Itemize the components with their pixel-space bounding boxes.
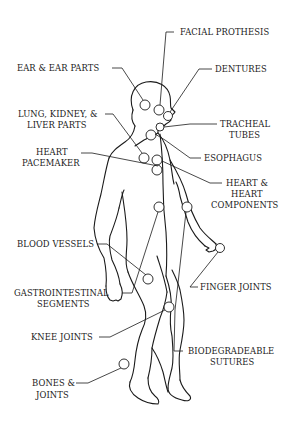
label-heart-components-1: HEART & <box>226 178 268 188</box>
marker-sutures <box>182 202 192 212</box>
label-biodegradeable-2: SUTURES <box>210 357 254 367</box>
marker-ear <box>140 100 150 110</box>
marker-blood <box>143 274 153 284</box>
label-heart-pacemaker-1: HEART <box>36 147 68 157</box>
label-biodegradeable-1: BIODEGRADEABLE <box>188 346 274 356</box>
label-dentures: DENTURES <box>215 64 267 74</box>
label-esophagus: ESOPHAGUS <box>204 153 262 163</box>
marker-lung <box>139 153 149 163</box>
marker-tracheal <box>156 123 164 131</box>
label-tracheal-tubes-1: TRACHEAL <box>220 119 271 129</box>
marker-knee <box>164 302 174 312</box>
label-blood-vessels: BLOOD VESSELS <box>17 239 94 249</box>
label-ear-parts: EAR & EAR PARTS <box>17 63 99 73</box>
implant-sites-diagram: FACIAL PROTHESIS EAR & EAR PARTS DENTURE… <box>0 0 299 421</box>
label-bones-joints-2: JOINTS <box>35 390 69 400</box>
marker-heart-components <box>152 155 162 165</box>
marker-bones <box>119 359 129 369</box>
label-gastrointestinal-2: SEGMENTS <box>37 299 90 309</box>
marker-esophagus <box>146 130 156 140</box>
label-tracheal-tubes-2: TUBES <box>229 130 260 140</box>
label-lung-kidney-liver-1: LUNG, KIDNEY, & <box>18 109 98 119</box>
marker-dentures <box>164 112 173 121</box>
label-facial-prosthesis: FACIAL PROTHESIS <box>180 27 269 37</box>
marker-facial <box>154 105 164 115</box>
label-gastrointestinal-1: GASTROINTESTINAL <box>14 288 109 298</box>
label-knee-joints: KNEE JOINTS <box>31 332 93 342</box>
label-finger-joints: FINGER JOINTS <box>200 282 272 292</box>
marker-finger <box>216 244 225 253</box>
label-heart-pacemaker-2: PACEMAKER <box>22 158 80 168</box>
marker-gastro <box>154 202 164 212</box>
label-lung-kidney-liver-2: LIVER PARTS <box>27 120 87 130</box>
implant-markers <box>119 100 225 369</box>
labels: FACIAL PROTHESIS EAR & EAR PARTS DENTURE… <box>14 27 279 400</box>
marker-pacemaker <box>152 165 162 175</box>
label-heart-components-3: COMPONENTS <box>211 200 279 210</box>
label-bones-joints-1: BONES & <box>32 378 76 388</box>
label-heart-components-2: HEART <box>231 189 263 199</box>
